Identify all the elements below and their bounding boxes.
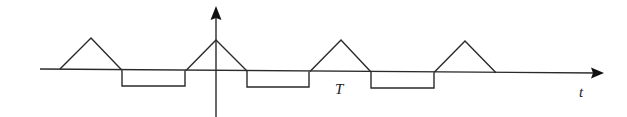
- rect-pulse-2: [247, 71, 309, 87]
- amplitude-axis-arrow-icon: [211, 6, 222, 20]
- triangle-pulse-4: [434, 41, 496, 73]
- time-axis-label: t: [579, 84, 584, 100]
- triangle-pulse-3: [310, 40, 371, 72]
- time-axis: [40, 69, 598, 73]
- rect-pulse-1: [122, 70, 185, 86]
- waveform: [60, 38, 496, 88]
- period-label: T: [335, 81, 345, 97]
- rect-pulse-3: [371, 72, 434, 88]
- triangle-pulse-1: [60, 38, 122, 70]
- waveform-diagram: T t: [0, 0, 627, 117]
